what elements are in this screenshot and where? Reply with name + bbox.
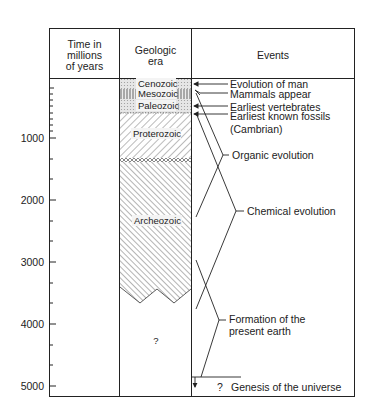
event-genesis-question: ?	[217, 381, 223, 393]
event-mammals-appear: Mammals appear	[230, 88, 311, 100]
era-unknown: ?	[148, 335, 164, 346]
event-earliest-fossils: Earliest known fossils	[230, 110, 330, 122]
event-formation-line2: present earth	[229, 325, 305, 337]
axis-ticks	[50, 88, 57, 386]
tick-4000: 4000	[4, 318, 44, 330]
header-time-line3: of years	[50, 61, 119, 72]
event-organic-evolution: Organic evolution	[232, 149, 314, 161]
event-chemical-evolution: Chemical evolution	[247, 205, 336, 217]
event-cambrian: (Cambrian)	[230, 123, 283, 135]
header-time: Time in millions of years	[50, 39, 119, 72]
tick-1000: 1000	[4, 132, 44, 144]
era-paleozoic: Paleozoic	[136, 100, 176, 111]
event-formation: Formation of the present earth	[229, 313, 305, 337]
tick-5000: 5000	[4, 380, 44, 392]
tick-2000: 2000	[4, 194, 44, 206]
bracket-formation	[196, 260, 219, 377]
bracket-chemical	[196, 113, 236, 309]
boundary-band	[120, 158, 191, 162]
tick-3000: 3000	[4, 256, 44, 268]
line-mammals	[195, 90, 228, 93]
era-proterozoic: Proterozoic	[131, 128, 181, 139]
era-mesozoic: Mesozoic	[136, 88, 176, 99]
header-era: Geologic era	[120, 45, 191, 67]
header-era-line2: era	[120, 56, 191, 67]
event-formation-line1: Formation of the	[229, 313, 305, 325]
era-archeozoic: Archeozoic	[132, 215, 182, 226]
era-column	[120, 79, 191, 303]
archeozoic-band	[120, 162, 191, 303]
event-genesis: Genesis of the universe	[231, 381, 341, 393]
bracket-organic	[196, 93, 223, 217]
header-events: Events	[192, 50, 354, 61]
